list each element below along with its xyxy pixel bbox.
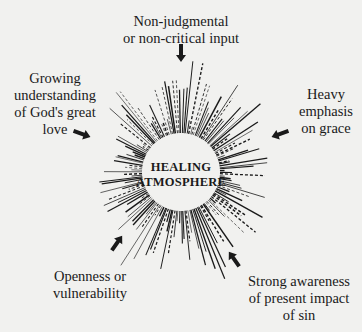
burst-ray bbox=[191, 210, 206, 265]
factor-label-left: Growing understanding of God's great lov… bbox=[0, 70, 110, 138]
burst-ray bbox=[125, 146, 145, 155]
center-label-line-2: ATMOSPHERE bbox=[131, 175, 231, 190]
burst-ray bbox=[174, 211, 177, 237]
burst-ray bbox=[150, 208, 166, 249]
burst-ray bbox=[202, 85, 237, 139]
burst-ray bbox=[182, 211, 183, 243]
burst-ray bbox=[180, 90, 181, 133]
burst-ray bbox=[120, 92, 157, 141]
burst-ray bbox=[127, 119, 153, 144]
burst-ray bbox=[182, 89, 184, 133]
factor-label-right: Heavy emphasis on grace bbox=[290, 86, 362, 137]
burst-ray bbox=[122, 105, 155, 143]
burst-ray bbox=[188, 210, 192, 232]
burst-ray bbox=[177, 211, 178, 221]
arrow-up-left-icon bbox=[225, 249, 244, 269]
burst-ray bbox=[176, 80, 179, 133]
center-label: HEALING ATMOSPHERE bbox=[131, 160, 231, 190]
factor-label-bottom-left: Openness or vulnerability bbox=[40, 268, 140, 302]
burst-ray bbox=[110, 108, 152, 146]
burst-ray bbox=[173, 81, 178, 133]
center-label-line-1: HEALING bbox=[131, 160, 231, 175]
burst-ray bbox=[183, 211, 184, 239]
arrow-left-icon bbox=[270, 126, 290, 142]
burst-ray bbox=[142, 204, 159, 228]
arrow-up-right-icon bbox=[108, 233, 127, 253]
burst-ray bbox=[143, 146, 149, 150]
burst-ray bbox=[189, 63, 203, 133]
factor-label-top: Non-judgmental or non-critical input bbox=[96, 13, 266, 47]
factor-label-bottom-right: Strong awareness of present impact of si… bbox=[236, 273, 362, 324]
burst-ray bbox=[118, 136, 147, 153]
burst-ray bbox=[126, 115, 154, 144]
burst-ray bbox=[116, 92, 156, 141]
